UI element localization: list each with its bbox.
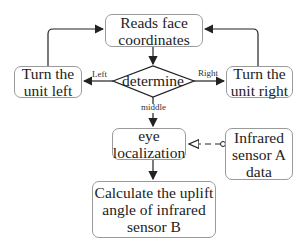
edge-label-left: Left	[92, 69, 107, 79]
read-face-box: Reads face coordinates	[105, 14, 203, 47]
turn-right-line2: unit right	[231, 82, 288, 99]
edge-label-middle: middle	[141, 102, 166, 112]
determine-label: determine	[113, 72, 193, 90]
eye-loc-line1: eye	[138, 127, 160, 144]
turn-left-box: Turn the unit left	[14, 66, 82, 98]
eye-localization-box: eye localization	[112, 128, 186, 160]
turn-left-line1: Turn the	[22, 65, 74, 82]
turn-right-box: Turn the unit right	[226, 66, 293, 98]
turn-right-line1: Turn the	[233, 65, 285, 82]
edge-label-right: Right	[198, 68, 218, 78]
turn-left-line2: unit left	[24, 82, 73, 99]
infrared-a-line3: data	[246, 163, 272, 180]
calc-line2: angle of infrared	[102, 201, 205, 218]
infrared-a-line2: sensor A	[232, 146, 286, 163]
calc-line3: sensor B	[127, 218, 181, 235]
infrared-sensor-a-box: Infrared sensor A data	[225, 128, 293, 180]
read-face-line1: Reads face	[120, 14, 188, 31]
read-face-line2: coordinates	[118, 31, 189, 48]
calc-line1: Calculate the uplift	[95, 184, 214, 201]
eye-loc-line2: localization	[113, 144, 185, 161]
infrared-a-line1: Infrared	[234, 129, 284, 146]
calculate-angle-box: Calculate the uplift angle of infrared s…	[92, 181, 216, 238]
